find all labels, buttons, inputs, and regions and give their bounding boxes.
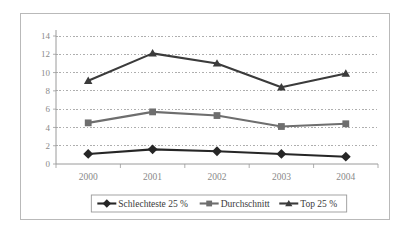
x-tick-label: 2004 <box>336 172 355 182</box>
y-tick-label: 14 <box>41 31 51 41</box>
data-point-marker <box>85 119 92 126</box>
data-point-marker <box>149 108 156 115</box>
chart-legend: Schlechteste 25 %DurchschnittTop 25 % <box>91 195 346 212</box>
data-point-marker <box>342 120 349 127</box>
x-axis <box>56 164 378 168</box>
y-tick-label: 10 <box>41 68 51 78</box>
y-tick-label: 0 <box>46 159 51 169</box>
x-tick-labels: 20002001200220032004 <box>79 172 356 182</box>
legend-label: Top 25 % <box>300 199 337 209</box>
x-tick-label: 2000 <box>79 172 98 182</box>
data-point-marker <box>83 149 93 159</box>
x-tick-label: 2002 <box>208 172 227 182</box>
data-point-marker <box>214 112 221 119</box>
legend-label: Durchschnitt <box>221 199 270 209</box>
y-axis: 02468101214 <box>41 30 56 169</box>
x-tick-label: 2003 <box>272 172 291 182</box>
y-tick-label: 12 <box>41 49 50 59</box>
legend-marker-swatch <box>206 201 212 207</box>
y-tick-label: 6 <box>46 104 51 114</box>
data-point-marker <box>278 123 285 130</box>
legend-label: Schlechteste 25 % <box>118 199 188 209</box>
series-lines <box>83 49 350 161</box>
line-chart: 02468101214 20002001200220032004 Schlech… <box>21 14 391 221</box>
data-point-marker <box>276 149 286 159</box>
data-point-marker <box>212 146 222 156</box>
y-tick-label: 2 <box>46 141 51 151</box>
y-tick-label: 8 <box>46 86 51 96</box>
data-point-marker <box>341 152 351 162</box>
y-tick-label: 4 <box>46 123 51 133</box>
gridlines <box>56 36 378 146</box>
series-line <box>88 53 346 87</box>
x-tick-label: 2001 <box>143 172 162 182</box>
chart-figure: 02468101214 20002001200220032004 Schlech… <box>20 13 390 220</box>
